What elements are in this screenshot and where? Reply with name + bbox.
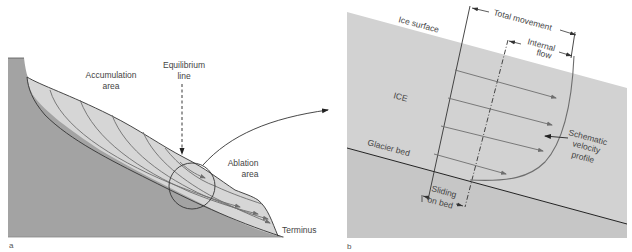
panel-a-label: a bbox=[9, 241, 14, 250]
panel-a: Accumulation area Equilibrium line Ablat… bbox=[8, 58, 328, 250]
total-movement-label: Total movement bbox=[492, 7, 553, 32]
magnify-arrow bbox=[203, 110, 328, 165]
terminus-label: Terminus bbox=[282, 225, 316, 235]
accumulation-label-2: area bbox=[102, 81, 119, 91]
panel-b: Ice surface Total movement Internal flow… bbox=[347, 6, 627, 251]
equilibrium-label-1: Equilibrium bbox=[163, 60, 205, 70]
accumulation-label-1: Accumulation bbox=[85, 70, 136, 80]
ablation-label-2: area bbox=[241, 169, 258, 179]
equilibrium-label-2: line bbox=[177, 71, 191, 81]
glacier-diagram: Accumulation area Equilibrium line Ablat… bbox=[0, 0, 632, 252]
ablation-label-1: Ablation bbox=[228, 158, 259, 168]
panel-b-label: b bbox=[347, 242, 352, 251]
